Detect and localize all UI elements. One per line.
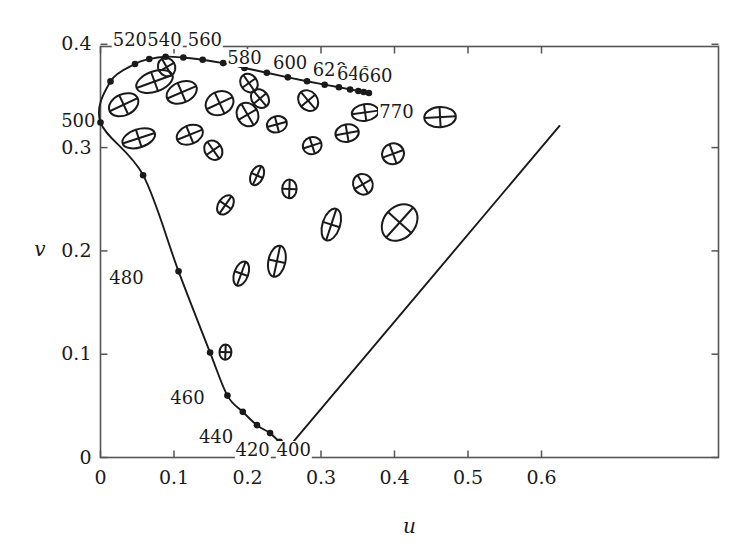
macadam-ellipse xyxy=(374,197,424,248)
ellipse-minor-axis xyxy=(178,83,186,102)
x-axis-title: u xyxy=(403,514,416,538)
x-tick-label: 0 xyxy=(94,466,106,488)
ellipse-minor-axis xyxy=(162,59,172,75)
wavelength-label: 520 xyxy=(112,31,148,49)
x-tick-label: 0.4 xyxy=(379,466,409,488)
ellipse-minor-axis xyxy=(282,189,296,190)
macadam-ellipse xyxy=(282,179,297,198)
wavelength-label: 580 xyxy=(226,49,262,67)
ellipse-minor-axis xyxy=(241,104,253,125)
macadam-ellipse xyxy=(424,106,457,128)
macadam-ellipse xyxy=(230,259,252,288)
wavelength-label: 440 xyxy=(198,428,234,446)
wavelength-label: 560 xyxy=(187,31,223,49)
macadam-ellipse xyxy=(202,87,238,120)
macadam-ellipse xyxy=(351,102,380,122)
ellipse-minor-axis xyxy=(301,92,315,109)
chromaticity-diagram-figure: 00.10.20.30.40.50.600.10.20.30.4uv520540… xyxy=(0,0,751,549)
macadam-ellipse xyxy=(120,124,158,152)
x-tick-label: 0.2 xyxy=(232,466,262,488)
ellipse-minor-axis xyxy=(207,142,219,159)
macadam-ellipse xyxy=(214,192,238,218)
x-tick-label: 0.6 xyxy=(526,466,556,488)
spectral-locus-point xyxy=(321,81,328,88)
spectral-locus-point xyxy=(347,86,354,93)
wavelength-label: 770 xyxy=(378,103,414,121)
line-of-purples xyxy=(289,126,560,447)
macadam-ellipse xyxy=(247,85,273,111)
y-axis-title: v xyxy=(34,237,45,261)
x-tick-label: 0.1 xyxy=(159,466,189,488)
spectral-locus-point xyxy=(224,392,231,399)
macadam-ellipse xyxy=(219,344,232,360)
macadam-ellipse xyxy=(265,114,289,135)
y-tick-label: 0.4 xyxy=(61,32,91,54)
spectral-locus-point xyxy=(239,409,246,416)
macadam-ellipse xyxy=(232,99,262,131)
wavelength-label: 480 xyxy=(108,269,144,287)
wavelength-label: 600 xyxy=(272,54,308,72)
macadam-ellipse xyxy=(200,137,226,164)
spectral-locus-point xyxy=(207,349,214,356)
spectral-locus-curve xyxy=(99,57,369,448)
macadam-ellipse xyxy=(294,86,322,115)
ellipse-minor-axis xyxy=(119,95,128,114)
x-tick-label: 0.3 xyxy=(306,466,336,488)
macadam-ellipse xyxy=(265,244,288,278)
spectral-locus-point xyxy=(267,430,274,437)
spectral-locus-point xyxy=(140,172,147,179)
ellipse-minor-axis xyxy=(215,93,225,114)
macadam-ellipse xyxy=(318,206,345,243)
wavelength-label: 420 xyxy=(234,441,270,459)
y-tick-label: 0 xyxy=(79,446,91,468)
macadam-ellipse xyxy=(163,77,200,108)
wavelength-label: 660 xyxy=(357,67,393,85)
ellipse-minor-axis xyxy=(440,107,441,127)
macadam-ellipse xyxy=(379,140,407,167)
y-tick-label: 0.3 xyxy=(61,136,91,158)
macadam-ellipse xyxy=(105,89,142,121)
spectral-locus-point xyxy=(199,56,206,63)
spectral-locus-point xyxy=(254,422,261,429)
macadam-ellipse xyxy=(300,135,323,157)
spectral-locus-point xyxy=(132,61,139,68)
ellipse-minor-axis xyxy=(243,75,254,91)
x-tick-label: 0.5 xyxy=(453,466,483,488)
macadam-ellipse xyxy=(237,70,262,96)
ellipse-minor-axis xyxy=(358,175,369,193)
spectral-locus-point xyxy=(107,78,114,85)
spectral-locus-point xyxy=(175,268,182,275)
ellipse-minor-axis xyxy=(220,201,232,209)
spectral-locus-point xyxy=(146,56,153,63)
spectral-locus-point xyxy=(180,54,187,61)
ellipse-minor-axis xyxy=(388,212,411,233)
macadam-ellipse xyxy=(247,164,267,188)
macadam-ellipse xyxy=(174,121,206,148)
y-tick-label: 0.2 xyxy=(61,239,91,261)
ellipse-minor-axis xyxy=(364,104,366,120)
wavelength-label: 540 xyxy=(146,31,182,49)
wavelength-label: 460 xyxy=(169,389,205,407)
spectral-locus-point xyxy=(336,84,343,91)
y-tick-label: 0.1 xyxy=(61,342,91,364)
spectral-locus-point xyxy=(97,119,104,126)
wavelength-label: 400 xyxy=(276,441,312,459)
wavelength-label: 500 xyxy=(60,112,96,130)
spectral-locus-point xyxy=(264,69,271,76)
spectral-locus-point xyxy=(366,90,373,97)
macadam-ellipse xyxy=(349,170,376,198)
spectral-locus-point xyxy=(285,74,292,81)
macadam-ellipse xyxy=(334,122,360,143)
spectral-locus-point xyxy=(304,78,311,85)
ellipse-minor-axis xyxy=(253,91,266,107)
